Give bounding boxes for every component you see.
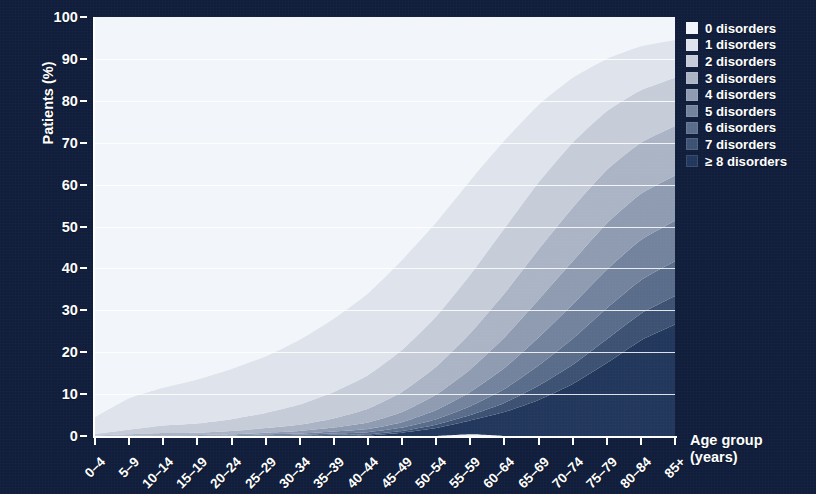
chart-legend: 0 disorders1 disorders2 disorders3 disor…	[686, 20, 787, 169]
legend-label: 4 disorders	[705, 87, 776, 102]
legend-item[interactable]: 2 disorders	[686, 53, 787, 70]
x-axis-title: Age group (years)	[690, 432, 763, 466]
legend-label: 6 disorders	[705, 120, 776, 135]
legend-item[interactable]: 6 disorders	[686, 120, 787, 137]
legend-item[interactable]: 5 disorders	[686, 103, 787, 120]
legend-swatch-icon	[686, 105, 698, 117]
legend-item[interactable]: 0 disorders	[686, 20, 787, 37]
legend-label: 7 disorders	[705, 137, 776, 152]
legend-label: 3 disorders	[705, 71, 776, 86]
legend-item[interactable]: ≥ 8 disorders	[686, 153, 787, 170]
y-axis-title: Patients (%)	[40, 33, 56, 173]
legend-label: ≥ 8 disorders	[705, 154, 787, 169]
legend-swatch-icon	[686, 155, 698, 167]
legend-swatch-icon	[686, 122, 698, 134]
legend-swatch-icon	[686, 39, 698, 51]
legend-label: 5 disorders	[705, 104, 776, 119]
legend-label: 0 disorders	[705, 21, 776, 36]
x-axis-title-line1: Age group	[690, 432, 763, 449]
legend-swatch-icon	[686, 72, 698, 84]
legend-item[interactable]: 3 disorders	[686, 70, 787, 87]
legend-label: 1 disorders	[705, 37, 776, 52]
x-axis-title-line2: (years)	[690, 449, 763, 466]
x-tick-label: 0–4	[0, 454, 108, 494]
legend-swatch-icon	[686, 89, 698, 101]
legend-item[interactable]: 7 disorders	[686, 136, 787, 153]
legend-swatch-icon	[686, 22, 698, 34]
legend-swatch-icon	[686, 55, 698, 67]
legend-label: 2 disorders	[705, 54, 776, 69]
legend-item[interactable]: 1 disorders	[686, 37, 787, 54]
legend-swatch-icon	[686, 138, 698, 150]
figure-canvas: 0102030405060708090100 0–45–910–1415–192…	[0, 0, 816, 494]
legend-item[interactable]: 4 disorders	[686, 86, 787, 103]
